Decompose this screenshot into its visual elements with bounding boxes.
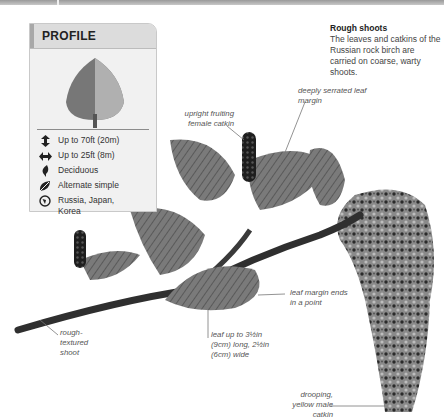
stat-deciduous-text: Deciduous xyxy=(58,165,98,176)
spread-icon xyxy=(38,150,52,162)
annotation-leaf-margin-point: leaf margin ends in a point xyxy=(290,288,352,308)
height-icon xyxy=(38,135,52,147)
stat-native-range-text: Russia, Japan, Korea xyxy=(58,195,138,217)
profile-divider xyxy=(37,129,149,130)
stat-leaf-arrangement: Alternate simple xyxy=(38,180,152,195)
caption-block: Rough shoots The leaves and catkins of t… xyxy=(330,23,442,78)
stat-height: Up to 70ft (20m) xyxy=(38,135,152,150)
annotation-leaf-size: leaf up to 3½in (9cm) long, 2½in (6cm) w… xyxy=(211,330,275,360)
profile-stats: Up to 70ft (20m) Up to 25ft (8m) Deciduo… xyxy=(38,135,152,221)
deciduous-leaf-icon xyxy=(38,165,52,177)
stat-height-text: Up to 70ft (20m) xyxy=(58,135,119,146)
caption-body: The leaves and catkins of the Russian ro… xyxy=(330,34,442,78)
profile-card: PROFILE Up to 70ft (20m) Up to 25ft (8m)… xyxy=(29,23,157,212)
stat-spread: Up to 25ft (8m) xyxy=(38,150,152,165)
stat-leaf-arrangement-text: Alternate simple xyxy=(58,180,119,191)
annotation-rough-shoot: rough-textured shoot xyxy=(60,328,100,358)
tree-silhouette-icon xyxy=(60,54,130,130)
caption-title: Rough shoots xyxy=(330,23,442,34)
annotation-deeply-serrated: deeply serrated leaf margin xyxy=(298,86,368,106)
stat-native-range: Russia, Japan, Korea xyxy=(38,195,152,221)
annotation-male-catkin: drooping, yellow male catkin xyxy=(283,390,333,420)
stat-spread-text: Up to 25ft (8m) xyxy=(58,150,115,161)
profile-accent-bar xyxy=(30,24,34,48)
stat-deciduous: Deciduous xyxy=(38,165,152,180)
profile-header: PROFILE xyxy=(30,24,156,49)
profile-title: PROFILE xyxy=(42,29,96,43)
annotation-upright-catkin: upright fruiting female catkin xyxy=(172,109,234,129)
globe-icon xyxy=(38,195,52,207)
leaf-arrangement-icon xyxy=(38,180,52,192)
